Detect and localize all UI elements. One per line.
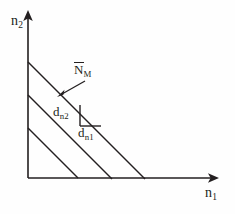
x-axis-label: n1 bbox=[205, 186, 217, 200]
dn1-label: dn1 bbox=[78, 126, 94, 139]
figure-container: n2 n1 NM dn2 dn1 bbox=[0, 0, 235, 214]
dn1-label-base: d bbox=[78, 125, 85, 140]
constraint-label-overbar-group: N bbox=[74, 62, 84, 77]
constraint-label-nbar-m: NM bbox=[74, 62, 92, 77]
constraint-label-subscript: M bbox=[84, 69, 92, 79]
x-axis-label-subscript: 1 bbox=[212, 192, 217, 202]
figure-canvas bbox=[0, 0, 235, 214]
y-axis-label-subscript: 2 bbox=[18, 20, 23, 30]
constraint-line-outer bbox=[28, 62, 145, 179]
dn1-label-subscript: n1 bbox=[85, 132, 94, 142]
dn2-label: dn2 bbox=[53, 105, 69, 118]
constraint-line-inner bbox=[28, 128, 78, 178]
constraint-line-middle bbox=[28, 95, 112, 179]
dn2-label-base: d bbox=[53, 104, 60, 119]
dn2-label-subscript: n2 bbox=[60, 111, 69, 121]
nbar-pointer-line bbox=[62, 81, 85, 94]
constraint-label-base: N bbox=[74, 62, 84, 77]
y-axis-label: n2 bbox=[11, 14, 23, 28]
